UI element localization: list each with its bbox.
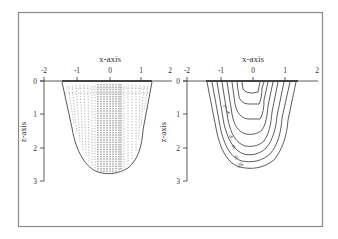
left-xtick: 0: [108, 66, 112, 75]
right-ztick: 1: [176, 110, 180, 119]
left-xlabel: x-axis: [99, 54, 121, 64]
right-xtick: 0: [251, 66, 255, 75]
contour-lines: [207, 82, 296, 168]
right-panel: x-axis -2 -1 0 1 2 0 1 2 3 z-axis: [158, 54, 319, 186]
right-xtick: 1: [283, 66, 287, 75]
right-ztick: 2: [176, 144, 180, 153]
right-xtick: -1: [218, 66, 224, 75]
left-ztick: 2: [33, 144, 37, 153]
right-xtick: -2: [184, 66, 190, 75]
left-ztick: 3: [33, 177, 37, 186]
contour-label: .4: [224, 110, 231, 117]
left-zlabel: z-axis: [18, 122, 28, 142]
left-xtick: -2: [41, 66, 47, 75]
right-zlabel: z-axis: [158, 122, 168, 142]
left-xtick: -1: [74, 66, 80, 75]
left-ztick: 0: [33, 77, 37, 86]
right-xtick: 2: [315, 66, 319, 75]
right-xlabel: x-axis: [242, 54, 264, 64]
left-xtick: 1: [139, 66, 143, 75]
left-ztick: 1: [33, 110, 37, 119]
vector-field: [68, 85, 148, 169]
left-xtick: 2: [168, 66, 172, 75]
figure: x-axis -2 -1 0 1 2 0 1 2 3: [0, 0, 338, 239]
right-ztick: 0: [176, 77, 180, 86]
contour-label: .8: [229, 143, 236, 150]
right-ztick: 3: [176, 177, 180, 186]
left-panel: x-axis -2 -1 0 1 2 0 1 2 3: [18, 54, 172, 186]
